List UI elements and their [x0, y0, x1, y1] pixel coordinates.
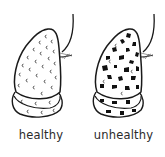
unhealthy-label: unhealthy: [82, 128, 165, 142]
healthy-label: healthy: [0, 128, 82, 142]
healthy-panel: healthy: [0, 0, 82, 157]
unhealthy-panel: unhealthy: [82, 0, 165, 157]
